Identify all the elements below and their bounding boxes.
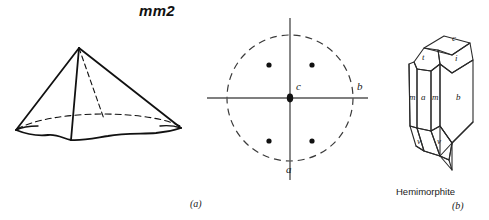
face-c-outline — [424, 36, 470, 55]
crystal-label-v-right: v — [437, 136, 441, 146]
subcaption-b: (b) — [452, 200, 464, 211]
crystal-label-v-left: v — [417, 136, 421, 146]
subcaption-a: (a) — [190, 198, 202, 209]
crystal-label-t: t — [422, 52, 425, 62]
mineral-name-caption: Hemimorphite — [396, 186, 455, 197]
crystallography-figure: mm2 — [0, 0, 489, 220]
crystal-right-lower-edge — [452, 122, 473, 143]
crystal-label-b: b — [456, 92, 461, 102]
crystal-label-m-left: m — [409, 92, 416, 102]
face-v-right-outline — [431, 126, 452, 156]
crystal-label-a: a — [421, 92, 426, 102]
crystal-bottom-edge — [416, 143, 452, 160]
crystal-label-i: i — [455, 53, 458, 63]
crystal-label-c: c — [452, 33, 456, 43]
crystal-label-m-mid: m — [432, 92, 439, 102]
